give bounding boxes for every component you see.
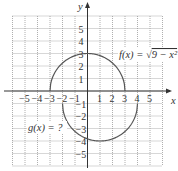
svg-text:−2: −2 bbox=[57, 93, 68, 104]
svg-text:−2: −2 bbox=[76, 111, 87, 122]
svg-text:5: 5 bbox=[147, 93, 152, 104]
svg-text:4: 4 bbox=[135, 93, 140, 104]
svg-text:5: 5 bbox=[79, 24, 84, 35]
svg-text:3: 3 bbox=[122, 93, 127, 104]
svg-text:2: 2 bbox=[110, 93, 115, 104]
svg-text:4: 4 bbox=[79, 36, 84, 47]
g-function-label: g(x) = ? bbox=[28, 122, 63, 134]
svg-text:−5: −5 bbox=[19, 93, 30, 104]
y-axis-arrow-icon bbox=[85, 2, 90, 8]
svg-text:2: 2 bbox=[79, 61, 84, 72]
svg-text:−3: −3 bbox=[44, 93, 55, 104]
f-function-label: f(x) = √9 − x² bbox=[119, 49, 178, 61]
svg-text:−4: −4 bbox=[32, 93, 43, 104]
y-axis-label: y bbox=[77, 1, 83, 12]
function-graph: x y −5−4−3−2−11234554321−1−2−3−4−5 f(x) … bbox=[0, 0, 178, 171]
svg-text:1: 1 bbox=[79, 74, 84, 85]
svg-text:−5: −5 bbox=[76, 149, 87, 160]
x-axis-label: x bbox=[170, 95, 176, 106]
svg-text:1: 1 bbox=[97, 93, 102, 104]
svg-text:−1: −1 bbox=[76, 99, 87, 110]
x-axis-arrow-icon bbox=[166, 89, 172, 94]
